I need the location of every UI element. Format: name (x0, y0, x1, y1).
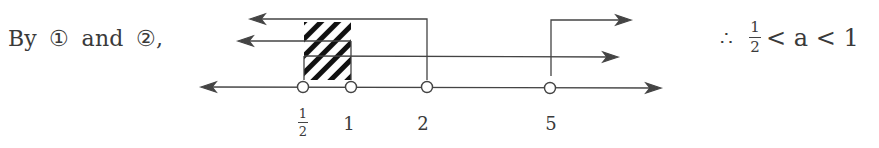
conclusion: ∴ 1 2 < a < 1 (720, 20, 859, 55)
tick-label-1: 1 (343, 113, 354, 134)
shaded-interval (304, 22, 351, 80)
tick-label-5: 5 (545, 113, 556, 134)
tick-label-2: 2 (417, 113, 428, 134)
open-circle-5 (545, 83, 556, 94)
open-circle-half (298, 82, 309, 93)
ray-x-gt-5 (551, 15, 631, 76)
open-circle-2 (422, 82, 433, 93)
conclusion-fraction: 1 2 (749, 20, 761, 55)
therefore-symbol: ∴ (720, 26, 733, 50)
open-circle-1 (346, 82, 357, 93)
conclusion-inequality: < a < 1 (766, 24, 859, 52)
tick-label-half: 1 2 (298, 107, 308, 138)
